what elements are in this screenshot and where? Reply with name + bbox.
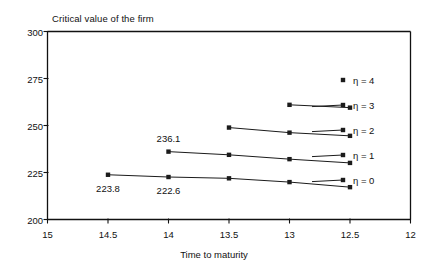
- legend-item-2: η = 2: [353, 125, 374, 136]
- legend-item-3: η = 3: [353, 100, 374, 111]
- data-point-label: 222.6: [157, 185, 181, 196]
- plot-canvas: [0, 0, 428, 273]
- y-axis-tick-label: 275: [14, 73, 43, 84]
- data-point-label: 223.8: [96, 183, 120, 194]
- x-axis-title: Time to maturity: [0, 249, 428, 260]
- y-axis-tick-label: 225: [14, 167, 43, 178]
- y-axis-tick-label: 200: [14, 214, 43, 225]
- chart-figure: Critical value of the firm 2002252502753…: [0, 0, 428, 273]
- legend-item-4: η = 4: [353, 75, 374, 86]
- legend-item-1: η = 1: [353, 150, 374, 161]
- x-axis-tick-label: 14: [163, 229, 174, 240]
- legend-item-0: η = 0: [353, 175, 374, 186]
- x-axis-tick-label: 15: [42, 229, 53, 240]
- x-axis-tick-label: 13.5: [220, 229, 239, 240]
- x-axis-tick-label: 12: [405, 229, 416, 240]
- legend-swatch-group: [312, 78, 345, 182]
- x-axis-tick-label: 12.5: [341, 229, 360, 240]
- y-axis-tick-label: 300: [14, 26, 43, 37]
- x-axis-tick-label: 14.5: [99, 229, 118, 240]
- y-axis-tick-label: 250: [14, 120, 43, 131]
- data-point-label: 236.1: [157, 133, 181, 144]
- series-group: [106, 103, 352, 190]
- x-axis-tick-label: 13: [284, 229, 295, 240]
